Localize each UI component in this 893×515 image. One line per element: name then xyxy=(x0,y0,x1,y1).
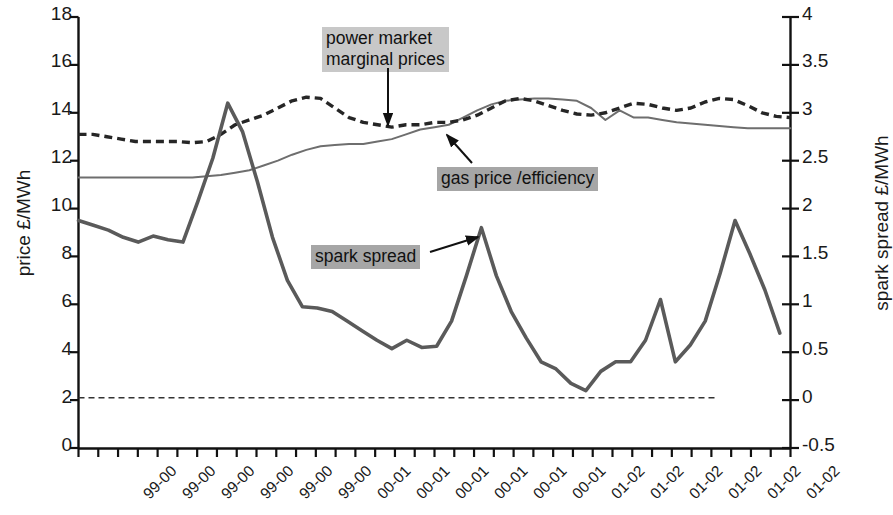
y-axis-left-ticks xyxy=(70,17,79,448)
series-spark-spread xyxy=(79,103,780,390)
series-power-market-marginal-prices xyxy=(79,97,791,143)
annotation-gas-price-pointer xyxy=(447,135,472,163)
annotation-spark-spread-pointer xyxy=(430,237,478,252)
series-gas-price-efficiency xyxy=(79,98,791,177)
